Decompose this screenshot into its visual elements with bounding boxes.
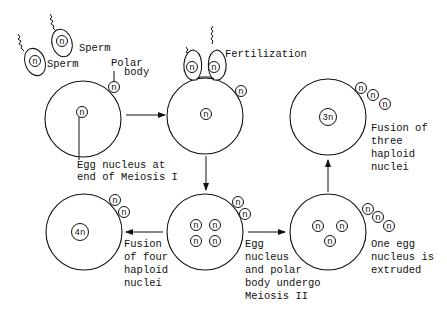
nucleus-label: n bbox=[79, 108, 84, 118]
nucleus-label: n bbox=[212, 237, 217, 247]
nucleus-label: n bbox=[203, 110, 208, 120]
nucleus-label: n bbox=[121, 208, 126, 218]
sperm-label-1: Sperm bbox=[79, 42, 111, 54]
nucleus-label: 4n bbox=[75, 228, 86, 238]
svg-text:nuclei: nuclei bbox=[124, 277, 162, 289]
sperm-free-2: n bbox=[49, 14, 76, 59]
nucleus-label: 3n bbox=[323, 113, 334, 123]
egg-cell-meiosis-2: n n n n n n bbox=[167, 194, 251, 270]
nucleus-label: n bbox=[193, 221, 198, 231]
svg-text:nucleus: nucleus bbox=[245, 251, 289, 263]
egg-nucleus-label-2: end of Meiosis I bbox=[77, 171, 178, 183]
nucleus-label: n bbox=[315, 222, 320, 232]
nucleus-label: n bbox=[193, 237, 198, 247]
polar-body-label-2: body bbox=[124, 66, 149, 78]
nucleus-label: n bbox=[59, 37, 64, 47]
egg-cell-fusion-four: n n 4n bbox=[46, 194, 130, 270]
nucleus-label: n bbox=[375, 213, 380, 223]
egg-nucleus-label-1: Egg nucleus at bbox=[77, 159, 165, 171]
svg-text:nuclei: nuclei bbox=[371, 161, 409, 173]
svg-text:One egg: One egg bbox=[371, 238, 415, 250]
nucleus-label: n bbox=[358, 84, 363, 94]
nucleus-label: n bbox=[370, 91, 375, 101]
nucleus-label: n bbox=[32, 57, 37, 67]
svg-text:three: three bbox=[371, 135, 403, 147]
svg-text:body undergo: body undergo bbox=[245, 277, 321, 289]
nucleus-label: n bbox=[386, 222, 391, 232]
extrusion-label: One egg nucleus is extruded bbox=[371, 238, 434, 276]
nucleus-label: n bbox=[211, 63, 216, 73]
fusion-three-label: Fusion of three haploid nuclei bbox=[371, 122, 428, 173]
svg-text:haploid: haploid bbox=[371, 148, 415, 160]
fusion-four-label: Fusion of four haploid nuclei bbox=[124, 238, 168, 289]
nucleus-label: n bbox=[189, 63, 194, 73]
nucleus-label: n bbox=[235, 198, 240, 208]
nucleus-label: n bbox=[327, 237, 332, 247]
svg-text:nucleus is: nucleus is bbox=[371, 251, 434, 263]
svg-text:of four: of four bbox=[124, 251, 168, 263]
svg-text:and polar: and polar bbox=[245, 264, 302, 276]
svg-text:haploid: haploid bbox=[124, 264, 168, 276]
sperm-tail-icon bbox=[18, 34, 24, 51]
fertilization-label: Fertilization bbox=[225, 48, 307, 60]
nucleus-label: n bbox=[212, 221, 217, 231]
egg-cell-fertilization: n n n n bbox=[167, 26, 247, 154]
egg-cell-meiosis-1: n n bbox=[45, 71, 121, 160]
nucleus-label: n bbox=[112, 196, 117, 206]
sperm-tail-icon bbox=[50, 14, 56, 31]
nucleus-label: n bbox=[238, 87, 243, 97]
svg-text:Fusion: Fusion bbox=[124, 238, 162, 250]
svg-text:Fusion of: Fusion of bbox=[371, 122, 428, 134]
nucleus-label: n bbox=[111, 83, 116, 93]
nucleus-label: n bbox=[382, 100, 387, 110]
sperm-label-2: Sperm bbox=[47, 58, 79, 70]
svg-text:Egg: Egg bbox=[245, 238, 264, 250]
nucleus-label: n bbox=[339, 222, 344, 232]
nucleus-label: n bbox=[365, 205, 370, 215]
triploid-egg-diagram: n Sperm n Sperm n n Polar body Egg nucle… bbox=[0, 0, 447, 313]
svg-text:extruded: extruded bbox=[371, 264, 421, 276]
nucleus-label: n bbox=[242, 210, 247, 220]
sperm-free-1: n bbox=[18, 34, 49, 79]
svg-text:Meiosis II: Meiosis II bbox=[245, 290, 308, 302]
